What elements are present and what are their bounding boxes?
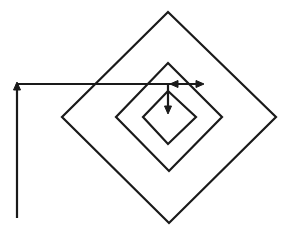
diagram-canvas <box>0 0 286 232</box>
down-arrowhead-icon <box>165 106 172 114</box>
spiral-diamond-diagram <box>0 0 286 232</box>
diamond-inner <box>143 91 196 144</box>
right-arrowhead-icon <box>196 81 204 88</box>
nested-diamonds <box>62 12 276 223</box>
left-arrowhead-icon <box>170 81 178 88</box>
diamond-outer <box>62 12 276 223</box>
diamond-middle <box>116 63 222 171</box>
arrow-path <box>17 84 200 218</box>
